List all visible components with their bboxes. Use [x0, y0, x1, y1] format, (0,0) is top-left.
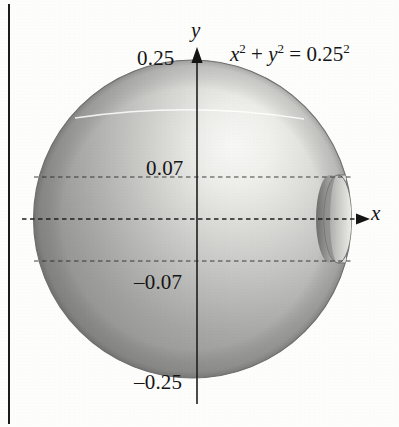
x-axis-arrowhead	[356, 214, 370, 225]
y-axis-arrowhead	[191, 47, 202, 63]
equation-var-y: y	[268, 42, 277, 66]
y-tick-label-0_07: 0.07	[146, 158, 184, 179]
equation-rhs: 0.25	[306, 42, 343, 66]
equation-rhs-exponent: 2	[343, 41, 350, 56]
equation-plus: +	[251, 42, 263, 66]
y-tick-label-neg0_07: –0.07	[134, 272, 182, 293]
y-tick-label-neg0_25: –0.25	[134, 372, 182, 393]
circle-equation: x2 + y2 = 0.252	[230, 44, 350, 65]
equation-y-exponent: 2	[278, 41, 285, 56]
equation-var-x: x	[230, 42, 239, 66]
equation-equals: =	[289, 42, 301, 66]
y-tick-label-0_25: 0.25	[137, 48, 175, 69]
figure-canvas: 0.25 0.07 –0.07 –0.25 y x x2 + y2 = 0.25…	[0, 0, 399, 427]
equation-x-exponent: 2	[239, 41, 246, 56]
x-axis-label: x	[371, 203, 380, 224]
y-axis-label: y	[191, 20, 200, 41]
